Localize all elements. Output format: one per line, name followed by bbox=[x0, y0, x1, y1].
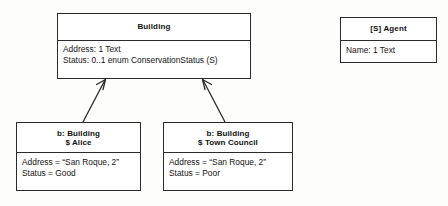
connector-town-council-to-building bbox=[203, 80, 226, 123]
class-name-label: Building bbox=[137, 22, 170, 31]
object-name-header: b: Building $ Alice bbox=[17, 123, 140, 153]
class-box-building[interactable]: Building Address: 1 Text Status: 0..1 en… bbox=[57, 13, 251, 79]
diagram-canvas: Building Address: 1 Text Status: 0..1 en… bbox=[0, 0, 448, 206]
connector-alice-to-building bbox=[83, 80, 106, 123]
object-owner-label: $ Alice bbox=[65, 138, 91, 147]
attribute-row: Status: 0..1 enum ConservationStatus (S) bbox=[63, 55, 245, 66]
object-type-label: b: Building bbox=[207, 129, 250, 138]
object-name-header: b: Building $ Town Council bbox=[164, 123, 292, 153]
attribute-row: Name: 1 Text bbox=[346, 45, 431, 56]
slot-row: Address = “San Roque, 2” bbox=[22, 157, 135, 168]
slot-row: Status = Good bbox=[22, 168, 135, 179]
slot-row: Status = Poor bbox=[169, 168, 287, 179]
class-attributes-compartment: Address: 1 Text Status: 0..1 enum Conser… bbox=[58, 41, 250, 79]
object-slots-compartment: Address = “San Roque, 2” Status = Poor bbox=[164, 153, 292, 190]
slot-row: Address = “San Roque, 2” bbox=[169, 157, 287, 168]
class-name-header: [S] Agent bbox=[341, 18, 436, 41]
attribute-row: Address: 1 Text bbox=[63, 44, 245, 55]
class-name-header: Building bbox=[58, 14, 250, 41]
object-box-town-council[interactable]: b: Building $ Town Council Address = “Sa… bbox=[163, 122, 293, 191]
class-box-agent[interactable]: [S] Agent Name: 1 Text bbox=[340, 17, 437, 63]
object-slots-compartment: Address = “San Roque, 2” Status = Good bbox=[17, 153, 140, 190]
class-name-label: [S] Agent bbox=[370, 24, 407, 33]
object-owner-label: $ Town Council bbox=[198, 138, 258, 147]
object-box-alice[interactable]: b: Building $ Alice Address = “San Roque… bbox=[16, 122, 141, 191]
object-type-label: b: Building bbox=[57, 129, 100, 138]
class-attributes-compartment: Name: 1 Text bbox=[341, 41, 436, 63]
